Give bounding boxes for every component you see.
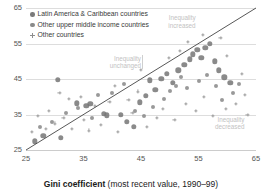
annotation-inequality-unchanged: Inequality unchanged <box>101 55 141 69</box>
chart-legend: Latin America & Caribbean countries Othe… <box>30 9 149 41</box>
legend-marker-cross-small-icon <box>30 33 35 38</box>
x-tick-label-45: 45 <box>137 155 145 163</box>
y-tick-label-45: 45 <box>2 75 22 83</box>
legend-item-upper-middle-income: Other upper middle income countries <box>30 20 149 31</box>
legend-label-other-countries: Other countries <box>38 30 84 41</box>
legend-item-other-countries: Other countries <box>30 30 149 41</box>
scatter-chart: Inequality increased Inequality unchange… <box>0 0 262 194</box>
y-tick-label-25: 25 <box>2 146 22 154</box>
legend-label-latin-america: Latin America & Caribbean countries <box>38 9 148 20</box>
annotation-bracket-unchanged <box>142 55 143 69</box>
x-tick-label-25: 25 <box>22 155 30 163</box>
legend-label-upper-middle-income: Other upper middle income countries <box>38 20 149 31</box>
x-axis-title-rest: (most recent value, 1990–99) <box>105 179 218 189</box>
y-tick-label-35: 35 <box>2 111 22 119</box>
gridline-y-25 <box>26 150 256 151</box>
x-tick-label-55: 55 <box>194 155 202 163</box>
x-axis-title-bold: Gini coefficient <box>44 179 105 189</box>
legend-item-latin-america: Latin America & Caribbean countries <box>30 9 149 20</box>
legend-marker-circle-medium-icon <box>30 23 35 28</box>
legend-marker-circle-large-icon <box>30 12 35 17</box>
annotation-inequality-increased: Inequality increased <box>156 14 196 28</box>
x-tick-label-65: 65 <box>252 155 260 163</box>
x-tick-label-35: 35 <box>79 155 87 163</box>
annotation-inequality-decreased: Inequality decreased <box>205 116 245 130</box>
y-tick-label-65: 65 <box>2 4 22 12</box>
x-axis-title: Gini coefficient (most recent value, 199… <box>0 180 262 189</box>
y-tick-label-55: 55 <box>2 40 22 48</box>
